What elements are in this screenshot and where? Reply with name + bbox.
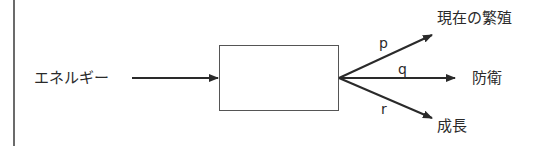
energy-label: エネルギー bbox=[34, 69, 109, 87]
coefficient-r: r bbox=[381, 101, 387, 117]
output-label-growth: 成長 bbox=[437, 117, 467, 135]
allocation-box bbox=[220, 46, 339, 111]
output-label-defense: 防衛 bbox=[472, 69, 502, 87]
output-label-reproduction: 現在の繁殖 bbox=[437, 9, 512, 27]
coefficient-q: q bbox=[398, 61, 407, 77]
coefficient-p: p bbox=[379, 35, 388, 51]
